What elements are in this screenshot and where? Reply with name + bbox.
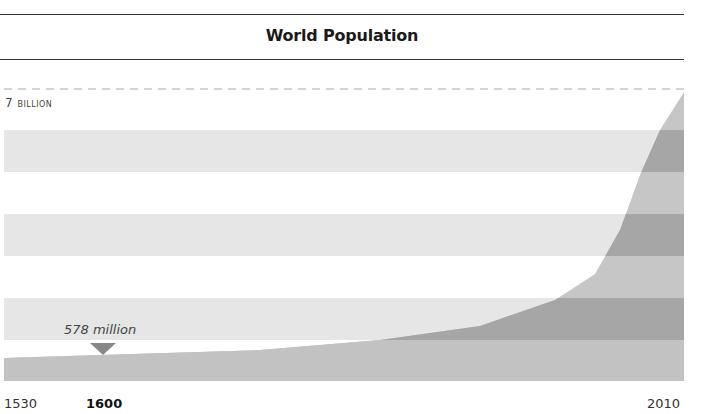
grid-band: [4, 130, 684, 172]
grid-band: [4, 214, 684, 256]
x-tick-end: 2010: [647, 396, 680, 411]
marker-triangle-icon: [90, 343, 116, 355]
top-value-label: 7 billion: [5, 96, 52, 110]
area-chart: [0, 0, 707, 414]
annotation-label: 578 million: [64, 322, 136, 337]
x-tick-start: 1530: [4, 396, 37, 411]
x-tick-highlight: 1600: [86, 396, 122, 411]
